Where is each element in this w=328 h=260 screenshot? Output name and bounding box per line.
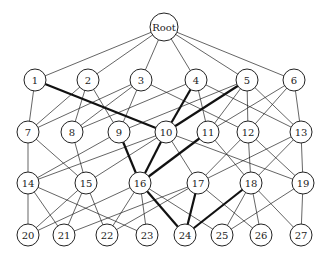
edge-Root-5 bbox=[164, 27, 247, 80]
node-label: 11 bbox=[202, 127, 215, 138]
node-label: 5 bbox=[244, 75, 250, 86]
node-label: 14 bbox=[22, 178, 35, 189]
node-4: 4 bbox=[185, 69, 207, 91]
node-25: 25 bbox=[211, 224, 233, 246]
node-label: 2 bbox=[85, 75, 91, 86]
layered-graph-diagram: Root123456789101112131415161718192021222… bbox=[0, 0, 328, 260]
node-label: 13 bbox=[295, 127, 308, 138]
node-27: 27 bbox=[290, 224, 312, 246]
node-18: 18 bbox=[240, 172, 262, 194]
node-21: 21 bbox=[53, 224, 75, 246]
node-label: 1 bbox=[32, 75, 38, 86]
node-label: 15 bbox=[80, 178, 93, 189]
node-24: 24 bbox=[174, 224, 196, 246]
node-label: 23 bbox=[141, 230, 154, 241]
edge-10-19 bbox=[166, 132, 303, 183]
edge-Root-6 bbox=[164, 27, 294, 80]
node-22: 22 bbox=[96, 224, 118, 246]
node-5: 5 bbox=[236, 69, 258, 91]
node-15: 15 bbox=[75, 172, 97, 194]
node-10: 10 bbox=[155, 121, 177, 143]
node-label: 24 bbox=[179, 230, 192, 241]
node-label: Root bbox=[152, 22, 176, 33]
node-label: 20 bbox=[22, 230, 35, 241]
node-label: 21 bbox=[58, 230, 71, 241]
node-label: 16 bbox=[134, 178, 147, 189]
node-label: 9 bbox=[116, 127, 122, 138]
graph-svg: Root123456789101112131415161718192021222… bbox=[0, 0, 328, 260]
node-label: 3 bbox=[138, 75, 144, 86]
node-label: 26 bbox=[255, 230, 268, 241]
node-23: 23 bbox=[136, 224, 158, 246]
node-root: Root bbox=[150, 13, 178, 41]
node-1: 1 bbox=[24, 69, 46, 91]
node-label: 18 bbox=[245, 178, 258, 189]
node-8: 8 bbox=[61, 121, 83, 143]
node-19: 19 bbox=[292, 172, 314, 194]
node-16: 16 bbox=[129, 172, 151, 194]
node-label: 6 bbox=[291, 75, 297, 86]
node-13: 13 bbox=[290, 121, 312, 143]
node-label: 17 bbox=[192, 178, 205, 189]
node-label: 7 bbox=[25, 127, 31, 138]
node-label: 22 bbox=[101, 230, 114, 241]
node-label: 19 bbox=[297, 178, 310, 189]
node-label: 4 bbox=[193, 75, 199, 86]
node-2: 2 bbox=[77, 69, 99, 91]
node-14: 14 bbox=[17, 172, 39, 194]
node-11: 11 bbox=[197, 121, 219, 143]
node-7: 7 bbox=[17, 121, 39, 143]
node-6: 6 bbox=[283, 69, 305, 91]
node-label: 27 bbox=[295, 230, 308, 241]
node-label: 10 bbox=[160, 127, 173, 138]
node-12: 12 bbox=[237, 121, 259, 143]
node-17: 17 bbox=[187, 172, 209, 194]
node-9: 9 bbox=[108, 121, 130, 143]
node-20: 20 bbox=[17, 224, 39, 246]
node-label: 8 bbox=[69, 127, 75, 138]
node-label: 12 bbox=[242, 127, 255, 138]
node-3: 3 bbox=[130, 69, 152, 91]
node-26: 26 bbox=[250, 224, 272, 246]
node-label: 25 bbox=[216, 230, 229, 241]
